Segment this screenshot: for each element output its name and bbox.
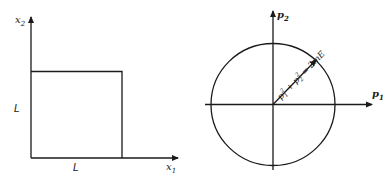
p2-axis-label: p2 bbox=[277, 9, 289, 23]
x2-axis-label: x2 bbox=[15, 14, 26, 28]
side-length-label-vertical: L bbox=[14, 103, 20, 114]
square-box bbox=[31, 72, 122, 159]
x1-axis-label: x1 bbox=[166, 161, 176, 175]
configuration-space-panel: x2 x1 L L bbox=[14, 14, 178, 175]
phase-space-diagram: x2 x1 L L p2 p1 p12 + p22 = 2mE bbox=[0, 0, 392, 178]
momentum-space-panel: p2 p1 p12 + p22 = 2mE bbox=[205, 9, 384, 170]
side-length-label-horizontal: L bbox=[73, 162, 79, 173]
p1-axis-label: p1 bbox=[372, 88, 384, 102]
radius-equation-label: p12 + p22 = 2mE bbox=[275, 47, 328, 102]
